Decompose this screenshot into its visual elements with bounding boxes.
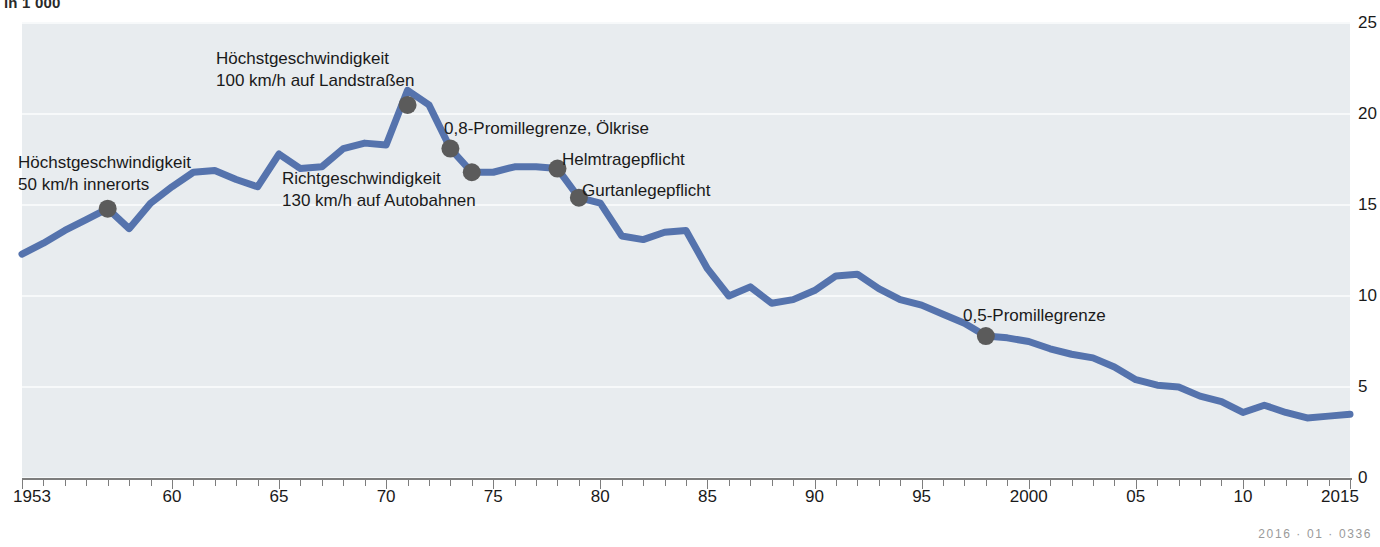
- x-tick-1996: [943, 480, 944, 486]
- x-tick-1989: [793, 480, 794, 486]
- credit-text: 2016 · 01 · 0336: [1258, 527, 1372, 541]
- x-tick-2011: [1264, 480, 1265, 486]
- x-tick-2002: [1072, 480, 1073, 486]
- x-tick-2014: [1329, 480, 1330, 486]
- gridline-5: [22, 386, 1350, 388]
- x-tick-1956: [86, 480, 87, 486]
- x-tick-2006: [1157, 480, 1158, 486]
- gridline-10: [22, 295, 1350, 297]
- annotation-promille-08: 0,8-Promillegrenze, Ölkrise: [444, 118, 649, 140]
- x-tick-label-10: 10: [1233, 487, 1252, 507]
- x-tick-1967: [322, 480, 323, 486]
- x-tick-1987: [750, 480, 751, 486]
- x-tick-1986: [729, 480, 730, 486]
- x-tick-1997: [964, 480, 965, 486]
- x-tick-1999: [1007, 480, 1008, 486]
- y-tick-label-15: 15: [1358, 195, 1377, 215]
- annotation-richtgeschw-130: Richtgeschwindigkeit130 km/h auf Autobah…: [282, 168, 476, 213]
- x-tick-1984: [686, 480, 687, 486]
- x-tick-1969: [365, 480, 366, 486]
- x-tick-1957: [108, 480, 109, 486]
- x-tick-1954: [43, 480, 44, 486]
- x-tick-1994: [900, 480, 901, 486]
- x-tick-label-90: 90: [805, 487, 824, 507]
- x-tick-label-60: 60: [162, 487, 181, 507]
- chart-figure: in 1 000 1953606570758085909520000510201…: [0, 0, 1380, 547]
- x-tick-2009: [1221, 480, 1222, 486]
- x-tick-label-2000: 2000: [1010, 487, 1048, 507]
- x-tick-1961: [193, 480, 194, 486]
- y-tick-label-0: 0: [1358, 468, 1367, 488]
- annotation-hoechst-100: Höchstgeschwindigkeit100 km/h auf Landst…: [216, 48, 414, 93]
- x-tick-2013: [1307, 480, 1308, 486]
- x-tick-2003: [1093, 480, 1094, 486]
- x-tick-1973: [450, 480, 451, 486]
- x-tick-1962: [215, 480, 216, 486]
- y-tick-label-5: 5: [1358, 377, 1367, 397]
- x-tick-1991: [836, 480, 837, 486]
- annotation-line: 0,5-Promillegrenze: [963, 305, 1106, 327]
- x-tick-1972: [429, 480, 430, 486]
- unit-caption: in 1 000: [4, 0, 61, 11]
- annotation-line: 50 km/h innerorts: [18, 174, 191, 196]
- x-tick-2008: [1200, 480, 1201, 486]
- x-tick-1971: [408, 480, 409, 486]
- x-tick-1993: [879, 480, 880, 486]
- annotation-line: Gurtanlegepflicht: [582, 180, 711, 202]
- x-tick-1963: [236, 480, 237, 486]
- x-tick-1966: [300, 480, 301, 486]
- annotation-promille-05: 0,5-Promillegrenze: [963, 305, 1106, 327]
- annotation-helmtragepflicht: Helmtragepflicht: [562, 149, 685, 171]
- x-tick-2001: [1050, 480, 1051, 486]
- y-tick-label-25: 25: [1358, 13, 1377, 33]
- x-tick-1976: [515, 480, 516, 486]
- annotation-line: Richtgeschwindigkeit: [282, 168, 476, 190]
- x-tick-label-65: 65: [270, 487, 289, 507]
- x-tick-1983: [665, 480, 666, 486]
- annotation-gurtanlegepflicht: Gurtanlegepflicht: [582, 180, 711, 202]
- x-axis-line: [22, 478, 1352, 480]
- annotation-line: Höchstgeschwindigkeit: [216, 48, 414, 70]
- annotation-line: 0,8-Promillegrenze, Ölkrise: [444, 118, 649, 140]
- y-tick-label-20: 20: [1358, 104, 1377, 124]
- gridline-15: [22, 204, 1350, 206]
- x-tick-label-95: 95: [912, 487, 931, 507]
- x-tick-label-80: 80: [591, 487, 610, 507]
- x-tick-label-05: 05: [1126, 487, 1145, 507]
- annotation-line: Helmtragepflicht: [562, 149, 685, 171]
- gridline-25: [22, 22, 1350, 24]
- annotation-line: 100 km/h auf Landstraßen: [216, 70, 414, 92]
- x-tick-1988: [772, 480, 773, 486]
- x-tick-1958: [129, 480, 130, 486]
- x-tick-1964: [258, 480, 259, 486]
- x-tick-2012: [1286, 480, 1287, 486]
- x-tick-1981: [622, 480, 623, 486]
- annotation-hoechst-50: Höchstgeschwindigkeit50 km/h innerorts: [18, 152, 191, 197]
- gridline-20: [22, 113, 1350, 115]
- x-tick-label-2015: 2015: [1321, 487, 1359, 507]
- x-tick-1992: [857, 480, 858, 486]
- x-tick-1974: [472, 480, 473, 486]
- x-tick-1977: [536, 480, 537, 486]
- x-tick-label-85: 85: [698, 487, 717, 507]
- x-tick-2007: [1179, 480, 1180, 486]
- annotation-line: Höchstgeschwindigkeit: [18, 152, 191, 174]
- x-tick-1978: [557, 480, 558, 486]
- x-tick-1979: [579, 480, 580, 486]
- annotation-line: 130 km/h auf Autobahnen: [282, 190, 476, 212]
- x-tick-1998: [986, 480, 987, 486]
- x-tick-label-70: 70: [377, 487, 396, 507]
- x-tick-1982: [643, 480, 644, 486]
- y-tick-label-10: 10: [1358, 286, 1377, 306]
- x-tick-label-1953: 1953: [13, 487, 51, 507]
- x-tick-label-75: 75: [484, 487, 503, 507]
- x-tick-1959: [151, 480, 152, 486]
- x-tick-1968: [343, 480, 344, 486]
- x-tick-1955: [65, 480, 66, 486]
- x-tick-2004: [1114, 480, 1115, 486]
